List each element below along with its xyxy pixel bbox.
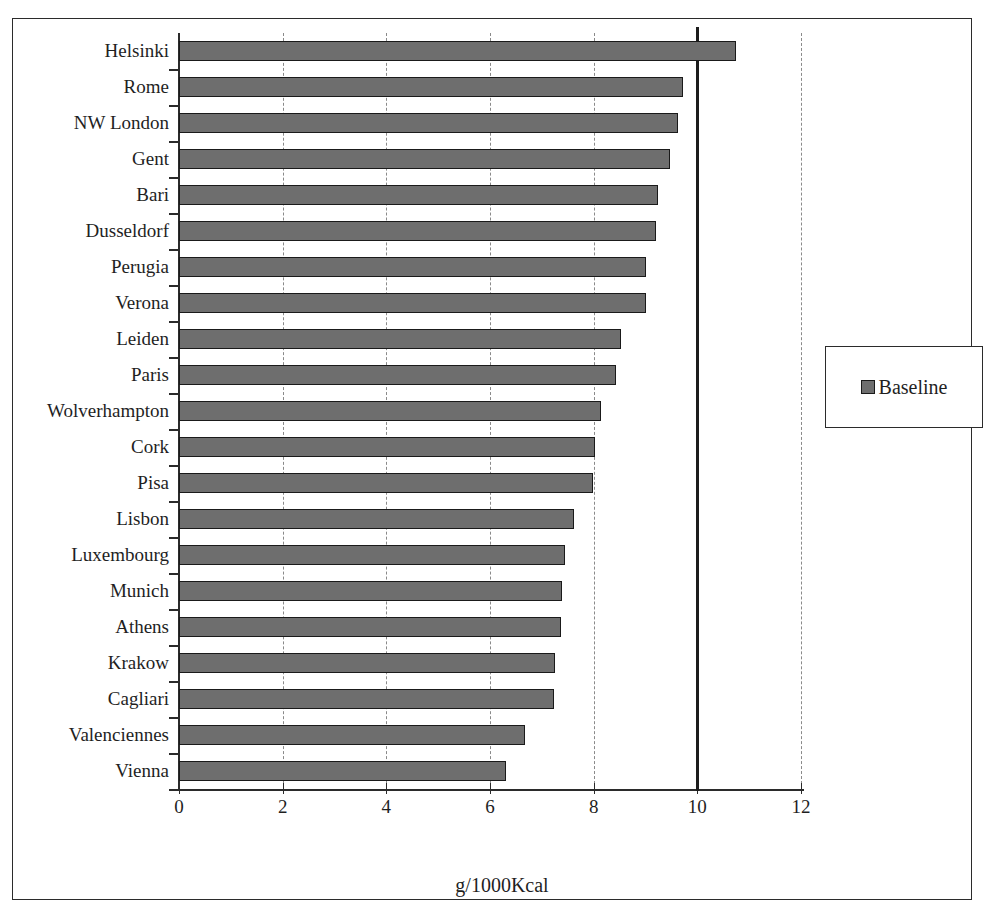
x-tick-4 (386, 783, 387, 794)
bar (179, 473, 593, 493)
x-tick-label-8: 8 (589, 796, 599, 818)
y-tick-label: Paris (131, 365, 169, 384)
bar (179, 293, 646, 313)
x-axis-title: g/1000Kcal (191, 874, 813, 897)
x-tick-label-10: 10 (688, 796, 707, 818)
bar (179, 41, 736, 61)
bar (179, 113, 678, 133)
y-tick (169, 177, 179, 179)
y-tick-label: Pisa (137, 473, 169, 492)
bar (179, 545, 565, 565)
y-tick (169, 69, 179, 71)
bar (179, 149, 670, 169)
x-tick-8 (594, 783, 595, 794)
bar (179, 365, 616, 385)
x-tick-12 (801, 783, 802, 794)
y-tick-label: NW London (74, 113, 169, 132)
x-tick-label-2: 2 (278, 796, 288, 818)
bar (179, 689, 554, 709)
bar (179, 221, 656, 241)
y-tick (169, 717, 179, 719)
y-tick-label: Athens (115, 617, 169, 636)
y-tick (169, 213, 179, 215)
bar (179, 761, 506, 781)
legend-square-icon (861, 380, 875, 394)
y-tick (169, 249, 179, 251)
y-tick (169, 285, 179, 287)
y-tick (169, 429, 179, 431)
y-tick-label: Dusseldorf (86, 221, 169, 240)
y-tick (169, 609, 179, 611)
reference-line-10 (696, 27, 699, 791)
y-tick-label: Lisbon (116, 509, 169, 528)
bar (179, 257, 646, 277)
bar (179, 653, 555, 673)
bar (179, 185, 658, 205)
y-tick-label: Gent (132, 149, 169, 168)
y-tick (169, 501, 179, 503)
bar (179, 401, 601, 421)
x-axis-spine (178, 789, 804, 791)
y-tick-label: Krakow (108, 653, 169, 672)
y-tick (169, 357, 179, 359)
y-tick-label: Cork (131, 437, 169, 456)
y-tick (169, 753, 179, 755)
x-tick-label-12: 12 (792, 796, 811, 818)
y-tick-label: Valenciennes (69, 725, 169, 744)
y-tick (169, 321, 179, 323)
chart-legend: Baseline (825, 346, 983, 428)
bar (179, 77, 683, 97)
y-tick-label: Vienna (115, 761, 169, 780)
legend-entry-baseline: Baseline (861, 376, 948, 399)
bar (179, 725, 525, 745)
x-tick-0 (179, 783, 180, 794)
y-tick-label: Bari (136, 185, 169, 204)
bar (179, 617, 561, 637)
chart-figure-frame: Baseline g/1000Kcal 024681012HelsinkiRom… (12, 18, 972, 900)
y-tick (169, 789, 179, 791)
y-tick-label: Munich (110, 581, 169, 600)
y-tick-label: Rome (124, 77, 169, 96)
y-tick (169, 393, 179, 395)
legend-label: Baseline (879, 376, 948, 399)
x-tick-label-0: 0 (174, 796, 184, 818)
y-tick (169, 537, 179, 539)
y-tick (169, 573, 179, 575)
y-tick-label: Leiden (116, 329, 169, 348)
bar (179, 581, 562, 601)
bar (179, 329, 621, 349)
y-tick-label: Luxembourg (71, 545, 169, 564)
y-tick-label: Cagliari (108, 689, 169, 708)
y-tick-label: Perugia (111, 257, 169, 276)
bar (179, 437, 595, 457)
x-tick-label-6: 6 (485, 796, 495, 818)
y-tick-label: Wolverhampton (47, 401, 169, 420)
bar (179, 509, 574, 529)
y-tick (169, 105, 179, 107)
y-tick (169, 465, 179, 467)
x-tick-label-4: 4 (382, 796, 392, 818)
y-tick (169, 645, 179, 647)
gridline-x-12 (801, 33, 803, 789)
x-tick-2 (283, 783, 284, 794)
y-tick-label: Helsinki (105, 41, 169, 60)
y-tick (169, 141, 179, 143)
x-tick-6 (490, 783, 491, 794)
y-tick-label: Verona (115, 293, 169, 312)
y-tick (169, 681, 179, 683)
